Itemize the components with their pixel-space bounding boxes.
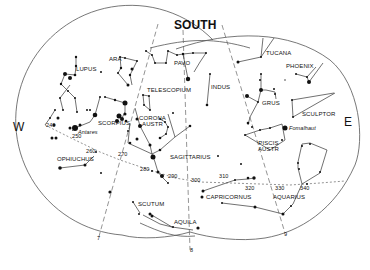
telescopium-lines bbox=[143, 95, 150, 110]
label-fomalhaut: Fomalhaut bbox=[289, 126, 316, 132]
label-aquila: AQUILA bbox=[174, 219, 197, 225]
indus-lines bbox=[207, 74, 210, 105]
label-pavo: PAVO bbox=[174, 60, 190, 66]
label-scorpius: SCORPIUS bbox=[98, 120, 130, 126]
pavo-indus-line bbox=[183, 54, 188, 79]
grus-lines-2 bbox=[248, 90, 261, 125]
ara-lines bbox=[120, 57, 137, 85]
lupus-lines bbox=[61, 57, 77, 112]
label-indus: INDUS bbox=[211, 84, 230, 90]
ecliptic-290: 290 bbox=[168, 174, 177, 180]
meridian-9 bbox=[222, 25, 285, 233]
ecliptic-250: 250 bbox=[72, 134, 81, 140]
ecliptic-240: 240 bbox=[46, 123, 55, 129]
ecliptic-340: 340 bbox=[300, 186, 309, 192]
east-label: E bbox=[344, 116, 352, 128]
right-horizon-arc bbox=[176, 36, 360, 238]
lupus-lines-2 bbox=[60, 85, 70, 110]
aquarius-lines bbox=[298, 143, 327, 184]
meridian-7-label: 7 bbox=[97, 236, 100, 242]
label-aquarius: AQUARIUS bbox=[273, 194, 305, 200]
label-ophiuchus: OPHIUCHUS bbox=[57, 156, 94, 162]
grus-lines bbox=[261, 74, 276, 99]
ecliptic-260: 260 bbox=[86, 149, 95, 155]
sagittarius-lines-4 bbox=[168, 114, 175, 137]
ecliptic-320: 320 bbox=[245, 186, 254, 192]
ecliptic-300: 300 bbox=[191, 178, 200, 184]
label-corona-line2: AUSTR bbox=[139, 121, 166, 127]
scorpius-lines-3 bbox=[95, 97, 100, 115]
aquila-arc-inner bbox=[140, 223, 195, 236]
west-label: W bbox=[13, 121, 24, 133]
capricornus-lines-2 bbox=[222, 203, 283, 214]
label-phoenix: PHOENIX bbox=[286, 63, 314, 69]
ecliptic-310: 310 bbox=[219, 174, 228, 180]
label-corona-austr: CORONA AUSTR bbox=[139, 115, 166, 127]
label-telescopium: TELESCOPIUM bbox=[147, 87, 191, 93]
label-grus: GRUS bbox=[262, 100, 280, 106]
label-ara: ARA bbox=[109, 56, 122, 62]
ecliptic-270: 270 bbox=[118, 152, 127, 158]
sculptor-lines-2 bbox=[292, 93, 334, 100]
fomalhaut-star bbox=[283, 126, 288, 131]
label-sculptor: SCULPTOR bbox=[302, 111, 335, 117]
label-lupus: LUPUS bbox=[76, 66, 97, 72]
label-scutum: SCUTUM bbox=[138, 201, 164, 207]
label-tucana: TUCANA bbox=[266, 50, 291, 56]
ecliptic-280: 280 bbox=[140, 167, 149, 173]
star-chart bbox=[0, 0, 370, 270]
stars bbox=[49, 50, 321, 230]
tucana-lines bbox=[238, 38, 263, 62]
south-label: SOUTH bbox=[174, 19, 217, 31]
aquila-lines-2 bbox=[143, 215, 172, 227]
label-piscis-line2: AUSTR bbox=[258, 146, 279, 152]
meridian-8-label: 8 bbox=[190, 248, 193, 254]
meridian-9-label: 9 bbox=[284, 232, 287, 238]
ecliptic-330: 330 bbox=[275, 186, 284, 192]
label-piscis-austr: PISCIS AUSTR bbox=[258, 140, 279, 152]
label-sagittarius: SAGITTARIUS bbox=[170, 154, 211, 160]
label-capricornus: CAPRICORNUS bbox=[206, 194, 251, 200]
